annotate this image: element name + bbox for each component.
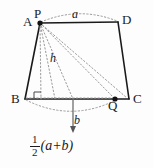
construction-line-P-to-foot [40,23,41,99]
midline-formula: 1 2 (a+b) [30,134,73,158]
formula-expression: (a+b) [41,138,74,154]
construction-line-P-to-midbase [40,23,73,99]
vertex-label-Q: Q [108,99,117,112]
arc-b-bottom [26,100,114,111]
fraction-denominator: 2 [30,147,40,159]
vertex-label-B: B [11,92,20,105]
arrow-head [70,126,76,133]
fraction-numerator: 1 [30,134,40,146]
construction-lines [26,23,127,99]
measure-label-b: b [74,114,80,126]
edge-AB-left [25,23,40,99]
geometry-figure: A P D B C Q a b h 1 2 (a+b) [0,0,154,168]
vertex-label-D: D [122,13,131,26]
vertex-label-P: P [34,7,41,20]
vertex-label-A: A [23,15,32,28]
vertex-label-C: C [133,92,142,105]
edge-AD-top [40,22,118,23]
arc-a-top [41,14,117,22]
measure-label-h: h [50,52,56,64]
edge-DC-right [118,22,129,99]
measure-label-a: a [72,8,78,20]
vertex-dot-P [37,20,42,25]
fraction-one-half: 1 2 [30,134,40,158]
